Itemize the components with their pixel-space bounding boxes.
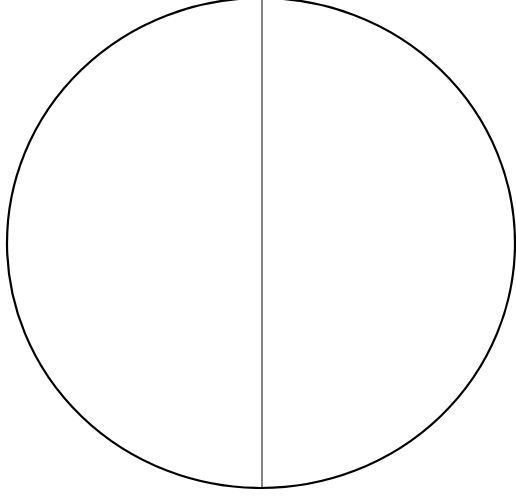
circle-outline bbox=[7, 0, 515, 488]
diagram-canvas bbox=[0, 0, 516, 501]
